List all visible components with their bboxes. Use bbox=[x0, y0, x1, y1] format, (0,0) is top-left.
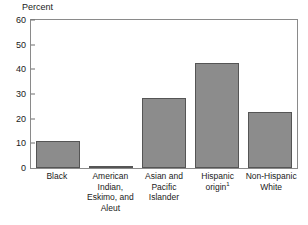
x-label-hisp-line1: Hispanic bbox=[201, 171, 234, 181]
x-label-nhw-line2: White bbox=[260, 182, 282, 192]
x-label-api-line2: Pacific bbox=[151, 182, 176, 192]
y-tick-label-30: 30 bbox=[16, 90, 31, 99]
x-axis-labels: Black American Indian, Eskimo, and Aleut… bbox=[30, 171, 298, 223]
x-label-ai-line4: Aleut bbox=[101, 203, 120, 213]
x-label-hispanic-origin: Hispanic origin1 bbox=[191, 171, 245, 192]
x-label-ai-line3: Eskimo, and bbox=[87, 192, 134, 202]
x-label-asian-pacific-islander: Asian and Pacific Islander bbox=[137, 171, 191, 203]
y-tick-label-40: 40 bbox=[16, 65, 31, 74]
bar-slot-american-indian-eskimo-aleut bbox=[84, 20, 137, 168]
bar-asian-pacific-islander bbox=[142, 98, 186, 168]
plot-area: 60 50 40 30 20 10 0 bbox=[30, 19, 298, 169]
x-label-api-line3: Islander bbox=[149, 192, 179, 202]
bar-slot-asian-pacific-islander bbox=[137, 20, 190, 168]
footnote-marker: 1 bbox=[226, 181, 229, 187]
bar-non-hispanic-white bbox=[248, 112, 292, 168]
x-label-black-line1: Black bbox=[46, 171, 67, 181]
bar-slot-hispanic-origin bbox=[191, 20, 244, 168]
bar-series bbox=[31, 20, 297, 168]
x-label-american-indian-eskimo-aleut: American Indian, Eskimo, and Aleut bbox=[81, 171, 140, 213]
y-tick-label-10: 10 bbox=[16, 139, 31, 148]
y-tick-label-50: 50 bbox=[16, 40, 31, 49]
bar-black bbox=[36, 141, 80, 168]
y-tick-label-60: 60 bbox=[16, 16, 31, 25]
bar-hispanic-origin bbox=[195, 63, 239, 168]
x-label-non-hispanic-white: Non-Hispanic White bbox=[242, 171, 301, 192]
x-label-api-line1: Asian and bbox=[145, 171, 183, 181]
x-label-ai-line2: Indian, bbox=[98, 182, 124, 192]
bar-chart-figure: Percent 60 50 40 30 20 10 0 bbox=[0, 0, 308, 225]
x-label-ai-line1: American bbox=[92, 171, 128, 181]
x-label-nhw-line1: Non-Hispanic bbox=[246, 171, 297, 181]
y-tick-label-20: 20 bbox=[16, 114, 31, 123]
x-label-hisp-line2: origin bbox=[206, 182, 227, 192]
bar-slot-non-hispanic-white bbox=[244, 20, 297, 168]
y-axis-title: Percent bbox=[22, 2, 53, 13]
x-label-black: Black bbox=[30, 171, 84, 182]
bar-slot-black bbox=[31, 20, 84, 168]
bar-american-indian-eskimo-aleut bbox=[89, 166, 133, 168]
